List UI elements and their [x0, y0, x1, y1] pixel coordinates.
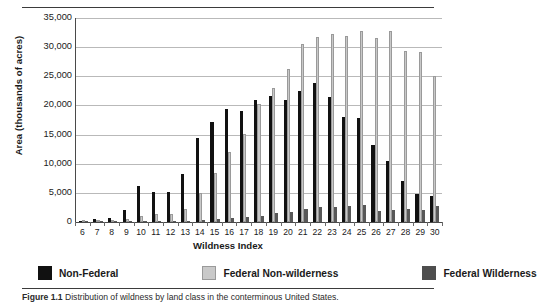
bar-group	[76, 18, 91, 222]
y-axis-tick-label: 15,000	[44, 130, 72, 139]
y-axis-tick-label: 0	[67, 217, 72, 226]
x-axis-tick-label: 7	[90, 226, 105, 238]
legend-label-federal-wilderness: Federal Wilderness	[443, 268, 536, 279]
y-axis-tick-label: 35,000	[44, 13, 72, 22]
bar	[422, 210, 425, 222]
x-axis-tick-label: 19	[266, 226, 281, 238]
bar-group	[149, 18, 164, 222]
figure-bottom-rule	[22, 288, 434, 289]
bar-chart: Area (thousands of acres) 05,00010,00015…	[0, 12, 456, 245]
bar-group	[325, 18, 340, 222]
x-axis-tick-label: 24	[339, 226, 354, 238]
bar	[290, 212, 293, 222]
bar-group	[310, 18, 325, 222]
x-axis-title: Wildness Index	[0, 240, 456, 251]
bar	[304, 209, 307, 222]
y-axis-tick-labels: 05,00010,00015,00020,00025,00030,00035,0…	[20, 12, 72, 224]
bar	[199, 193, 202, 222]
legend-swatch-federal-wilderness	[422, 266, 436, 280]
bar-group	[91, 18, 106, 222]
bar	[345, 36, 348, 223]
x-axis-tick-label: 20	[281, 226, 296, 238]
bar-group	[413, 18, 428, 222]
figure-top-rule	[22, 7, 434, 8]
y-axis-tick-label: 20,000	[44, 101, 72, 110]
legend-item-non-federal: Non-Federal	[38, 266, 118, 280]
x-axis-tick-label: 12	[163, 226, 178, 238]
x-axis-tick-labels: 6789101112131415161718192021222324252627…	[75, 226, 442, 238]
bar	[378, 211, 381, 222]
bar	[319, 207, 322, 222]
bar-group	[208, 18, 223, 222]
bar	[272, 88, 275, 222]
bar	[257, 104, 260, 222]
bar	[407, 209, 410, 222]
x-axis-tick-label: 18	[251, 226, 266, 238]
bar	[228, 152, 231, 222]
bar	[363, 205, 366, 222]
bar	[334, 207, 337, 222]
legend-label-non-federal: Non-Federal	[59, 268, 118, 279]
y-axis-tick-label: 30,000	[44, 42, 72, 51]
x-axis-tick-label: 10	[134, 226, 149, 238]
figure-caption: Figure 1.1 Distribution of wildness by l…	[22, 292, 442, 303]
x-axis-tick-label: 13	[178, 226, 193, 238]
chart-legend: Non-Federal Federal Non-wilderness Feder…	[22, 264, 434, 282]
bar-group	[340, 18, 355, 222]
figure-caption-prefix: Figure 1.1	[22, 292, 63, 302]
x-axis-tick-label: 6	[75, 226, 90, 238]
legend-swatch-non-federal	[38, 266, 52, 280]
figure-caption-text: Distribution of wildness by land class i…	[65, 292, 339, 302]
x-axis-tick-label: 11	[148, 226, 163, 238]
bar	[436, 206, 439, 222]
x-axis-tick-label: 30	[428, 226, 443, 238]
bar-group	[120, 18, 135, 222]
bar-group	[252, 18, 267, 222]
bar	[404, 51, 407, 222]
x-axis-tick-label: 27	[383, 226, 398, 238]
y-axis-tick-label: 10,000	[44, 159, 72, 168]
bar-group	[427, 18, 442, 222]
bar-group	[281, 18, 296, 222]
bar	[243, 134, 246, 222]
bar-group	[296, 18, 311, 222]
bar-groups	[76, 18, 442, 222]
x-axis-tick-label: 21	[295, 226, 310, 238]
x-axis-tick-label: 29	[413, 226, 428, 238]
x-axis-tick-label: 17	[237, 226, 252, 238]
bar	[275, 213, 278, 222]
y-axis-tick-label: 25,000	[44, 72, 72, 81]
legend-label-federal-non-wilderness: Federal Non-wilderness	[223, 268, 338, 279]
x-axis-tick-label: 22	[310, 226, 325, 238]
x-axis-tick-label: 9	[119, 226, 134, 238]
plot-area	[75, 18, 442, 223]
bar-group	[105, 18, 120, 222]
bar-group	[237, 18, 252, 222]
y-axis-tick-label: 5,000	[49, 188, 72, 197]
bar	[392, 210, 395, 222]
bar-group	[369, 18, 384, 222]
bar-group	[178, 18, 193, 222]
bar	[316, 37, 319, 222]
bar	[214, 173, 217, 222]
bar-group	[135, 18, 150, 222]
bar-group	[383, 18, 398, 222]
bar	[389, 31, 392, 222]
legend-item-federal-non-wilderness: Federal Non-wilderness	[202, 266, 338, 280]
x-axis-tick-label: 8	[104, 226, 119, 238]
x-axis-tick-label: 16	[222, 226, 237, 238]
x-axis-tick-label: 23	[325, 226, 340, 238]
bar	[287, 69, 290, 222]
bar-group	[193, 18, 208, 222]
bar	[360, 31, 363, 222]
legend-item-federal-wilderness: Federal Wilderness	[422, 266, 536, 280]
x-axis-tick-label: 25	[354, 226, 369, 238]
legend-swatch-federal-non-wilderness	[202, 266, 216, 280]
x-axis-tick-label: 14	[193, 226, 208, 238]
bar-group	[222, 18, 237, 222]
bar-group	[354, 18, 369, 222]
bar	[375, 38, 378, 222]
x-axis-tick-label: 28	[398, 226, 413, 238]
bar	[433, 76, 436, 222]
